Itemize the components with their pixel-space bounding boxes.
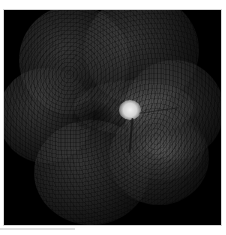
bottom-strip	[0, 227, 226, 235]
retinal-texture	[4, 10, 221, 225]
divider	[0, 228, 75, 230]
optic-disc	[119, 100, 141, 120]
fundus-image	[4, 10, 221, 225]
